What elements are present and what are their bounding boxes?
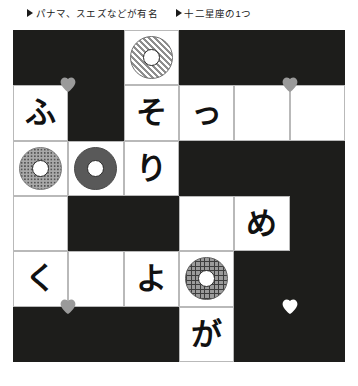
- triangle-right-icon: [27, 9, 33, 17]
- cell-letter: り: [136, 153, 167, 184]
- puzzle-grid-container: ふそっりめくよが: [13, 30, 345, 362]
- grid-cell[interactable]: [179, 196, 234, 251]
- grid-cell-block: [13, 30, 68, 85]
- grid-cell-block: [234, 251, 289, 306]
- grid-cell[interactable]: め: [234, 196, 289, 251]
- grid-cell-block: [290, 251, 345, 306]
- grid-cell-block: [290, 196, 345, 251]
- grid-cell-block: [68, 307, 123, 362]
- grid-cell-block: [234, 307, 289, 362]
- puzzle-grid: ふそっりめくよが: [13, 30, 345, 362]
- ring-symbol-cross: [185, 257, 228, 300]
- clue-bar: パナマ、スエズなどが有名 十二星座の1つ: [0, 0, 358, 26]
- grid-cell-block: [68, 30, 123, 85]
- grid-cell[interactable]: り: [124, 141, 179, 196]
- grid-cell-block: [124, 307, 179, 362]
- cell-letter: が: [191, 319, 222, 350]
- cell-letter: そ: [136, 97, 167, 128]
- grid-cell-block: [290, 141, 345, 196]
- cell-letter: よ: [136, 263, 167, 294]
- cell-letter: め: [246, 208, 277, 239]
- grid-cell[interactable]: く: [13, 251, 68, 306]
- grid-cell[interactable]: ふ: [13, 85, 68, 140]
- grid-cell-block: [290, 30, 345, 85]
- grid-cell-block: [124, 196, 179, 251]
- cell-letter: ふ: [25, 97, 56, 128]
- grid-cell-block: [234, 30, 289, 85]
- grid-cell-block: [179, 30, 234, 85]
- ring-symbol-solid: [74, 147, 117, 190]
- grid-cell[interactable]: そ: [124, 85, 179, 140]
- grid-cell[interactable]: [290, 85, 345, 140]
- grid-cell-block: [13, 307, 68, 362]
- cell-letter: く: [25, 263, 56, 294]
- cell-letter: っ: [191, 97, 222, 128]
- grid-cell[interactable]: っ: [179, 85, 234, 140]
- grid-cell[interactable]: が: [179, 307, 234, 362]
- grid-cell[interactable]: よ: [124, 251, 179, 306]
- grid-cell[interactable]: [13, 141, 68, 196]
- clue-item-2: 十二星座の1つ: [176, 6, 251, 20]
- grid-cell[interactable]: [234, 85, 289, 140]
- clue-text-2: 十二星座の1つ: [184, 6, 251, 20]
- grid-cell-block: [68, 85, 123, 140]
- grid-cell-block: [179, 141, 234, 196]
- clue-item-1: パナマ、スエズなどが有名: [27, 6, 158, 20]
- grid-cell-block: [290, 307, 345, 362]
- ring-symbol-dotted: [19, 147, 62, 190]
- grid-cell[interactable]: [179, 251, 234, 306]
- grid-cell[interactable]: [68, 251, 123, 306]
- triangle-right-icon: [176, 9, 182, 17]
- grid-cell[interactable]: [68, 141, 123, 196]
- clue-text-1: パナマ、スエズなどが有名: [36, 6, 158, 20]
- grid-cell[interactable]: [124, 30, 179, 85]
- grid-cell-block: [234, 141, 289, 196]
- grid-cell-block: [68, 196, 123, 251]
- grid-cell[interactable]: [13, 196, 68, 251]
- ring-symbol-diagonal: [130, 36, 173, 79]
